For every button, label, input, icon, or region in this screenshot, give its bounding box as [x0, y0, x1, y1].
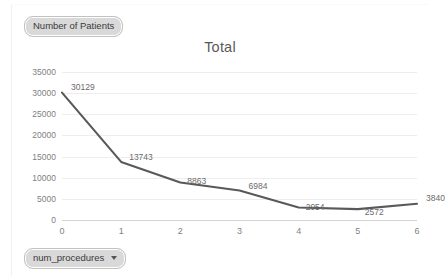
chart-title: Total — [0, 39, 440, 55]
data-point-label: 8863 — [187, 176, 206, 186]
x-axis-tick-label: 5 — [355, 226, 360, 236]
data-point-label: 30129 — [71, 82, 95, 92]
series-line-total — [62, 72, 417, 220]
y-axis-tick-label: 30000 — [10, 88, 56, 98]
data-point-label: 6984 — [249, 181, 268, 191]
panel-top-border — [11, 4, 429, 5]
data-point-label: 3840 — [426, 193, 445, 203]
y-axis-tick-label: 10000 — [10, 173, 56, 183]
x-axis-tick-label: 1 — [119, 226, 124, 236]
y-axis-tick-label: 35000 — [10, 67, 56, 77]
data-point-label: 2954 — [306, 202, 325, 212]
measure-field-label: Number of Patients — [33, 21, 114, 31]
data-point-label: 2572 — [365, 207, 384, 217]
row-field-chip[interactable]: num_procedures — [24, 248, 126, 269]
y-axis-tick-label: 20000 — [10, 130, 56, 140]
x-axis-tick-label: 2 — [178, 226, 183, 236]
y-axis-tick-label: 0 — [10, 215, 56, 225]
y-axis-tick-label: 15000 — [10, 152, 56, 162]
chevron-down-icon[interactable] — [111, 256, 117, 260]
y-axis-tick-label: 25000 — [10, 109, 56, 119]
y-axis-tick-label: 5000 — [10, 194, 56, 204]
row-field-label: num_procedures — [33, 253, 104, 263]
x-axis-tick-label: 4 — [296, 226, 301, 236]
x-axis-tick-label: 3 — [237, 226, 242, 236]
x-axis-tick-label: 0 — [59, 226, 64, 236]
x-axis-line — [62, 220, 417, 221]
measure-field-chip[interactable]: Number of Patients — [24, 16, 123, 37]
x-axis-tick-label: 6 — [414, 226, 419, 236]
data-point-label: 13743 — [129, 152, 153, 162]
